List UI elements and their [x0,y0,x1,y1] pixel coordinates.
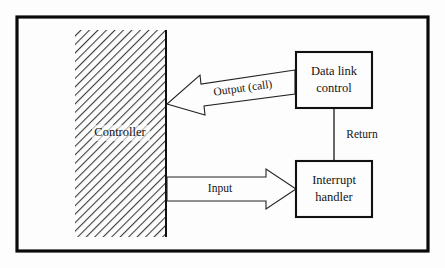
diagram-canvas: Controller Output (call) Input Return Da… [0,0,445,268]
data-link-control-label-line2: control [316,81,352,95]
data-link-control-label-line1: Data link [311,64,358,78]
return-label: Return [346,128,378,140]
interrupt-handler-label-line1: Interrupt [312,173,356,187]
block-diagram-figure: Controller Output (call) Input Return Da… [0,0,445,268]
input-label: Input [208,182,233,195]
figure-background [0,0,445,268]
interrupt-handler-label-line2: handler [315,190,353,204]
controller-label: Controller [94,125,146,139]
